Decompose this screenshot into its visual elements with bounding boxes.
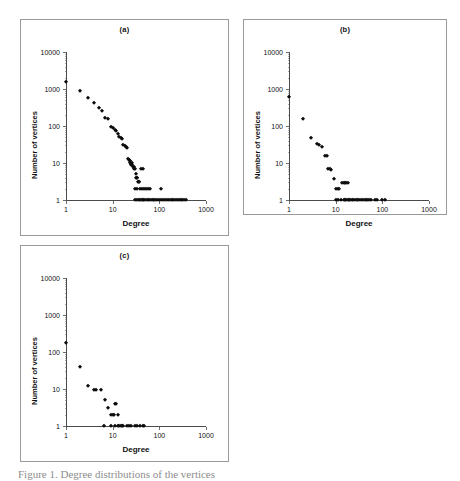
x-tick-label: 100 xyxy=(153,206,165,213)
y-minor-tick xyxy=(65,130,67,131)
y-axis-line xyxy=(66,52,67,200)
y-minor-tick xyxy=(65,334,67,335)
y-minor-tick xyxy=(288,63,290,64)
y-minor-tick xyxy=(65,165,67,166)
y-minor-tick xyxy=(288,71,290,72)
y-minor-tick xyxy=(288,137,290,138)
y-minor-tick xyxy=(65,415,67,416)
y-axis-line xyxy=(289,52,290,200)
y-minor-tick xyxy=(65,134,67,135)
y-tick-label: 1 xyxy=(20,423,60,430)
y-minor-tick xyxy=(65,378,67,379)
y-minor-tick xyxy=(288,108,290,109)
y-minor-tick xyxy=(65,71,67,72)
figure-caption: Figure 1. Degree distributions of the ve… xyxy=(18,468,448,480)
y-minor-tick xyxy=(65,367,67,368)
data-point xyxy=(78,364,83,369)
y-minor-tick xyxy=(65,408,67,409)
y-axis-title: Number of vertices xyxy=(253,111,262,179)
panel-a: (a) 1101001000100001101001000DegreeNumbe… xyxy=(20,19,229,236)
y-tick-label: 1 xyxy=(20,197,60,204)
y-minor-tick xyxy=(288,60,290,61)
y-tick-label: 10 xyxy=(243,160,283,167)
y-minor-tick xyxy=(288,141,290,142)
x-tick xyxy=(113,427,114,430)
y-minor-tick xyxy=(65,132,67,133)
x-tick xyxy=(206,201,207,204)
data-point xyxy=(106,117,111,122)
panel-b: (b) 1101001000100001101001000DegreeNumbe… xyxy=(243,19,447,215)
data-point xyxy=(309,135,314,140)
x-tick-label: 100 xyxy=(153,432,165,439)
panel-c-plot: 1101001000100001101001000DegreeNumber of… xyxy=(66,278,206,426)
x-tick xyxy=(429,201,430,204)
y-minor-tick xyxy=(65,58,67,59)
y-minor-tick xyxy=(65,360,67,361)
data-point xyxy=(319,145,324,150)
y-minor-tick xyxy=(288,171,290,172)
y-tick-label: 1000 xyxy=(20,86,60,93)
y-minor-tick xyxy=(65,93,67,94)
y-minor-tick xyxy=(65,282,67,283)
y-minor-tick xyxy=(65,321,67,322)
y-tick-label: 1000 xyxy=(20,312,60,319)
x-tick-label: 1 xyxy=(64,432,68,439)
y-minor-tick xyxy=(65,141,67,142)
data-point xyxy=(116,412,121,417)
y-minor-tick xyxy=(288,115,290,116)
data-point xyxy=(103,398,108,403)
y-minor-tick xyxy=(288,91,290,92)
y-minor-tick xyxy=(65,393,67,394)
data-point xyxy=(120,137,125,142)
data-point xyxy=(331,177,336,182)
y-minor-tick xyxy=(65,304,67,305)
y-minor-tick xyxy=(288,54,290,55)
data-point xyxy=(64,340,69,345)
y-minor-tick xyxy=(65,284,67,285)
x-tick xyxy=(206,427,207,430)
y-tick-label: 10 xyxy=(20,386,60,393)
data-point xyxy=(329,168,334,173)
x-axis-title: Degree xyxy=(345,219,372,228)
data-point xyxy=(159,186,164,191)
y-minor-tick xyxy=(65,97,67,98)
data-point xyxy=(86,384,91,389)
data-point xyxy=(86,95,91,100)
y-minor-tick xyxy=(65,60,67,61)
y-minor-tick xyxy=(65,330,67,331)
y-minor-tick xyxy=(65,395,67,396)
figure-root: (a) 1101001000100001101001000DegreeNumbe… xyxy=(0,0,460,481)
x-tick xyxy=(159,427,160,430)
x-tick-label: 1000 xyxy=(421,206,437,213)
panel-c: (c) 1101001000100001101001000DegreeNumbe… xyxy=(20,245,229,462)
y-minor-tick xyxy=(65,171,67,172)
y-minor-tick xyxy=(65,145,67,146)
y-minor-tick xyxy=(65,326,67,327)
y-minor-tick xyxy=(65,169,67,170)
y-minor-tick xyxy=(288,130,290,131)
data-point xyxy=(100,109,105,114)
x-tick xyxy=(66,201,67,204)
y-minor-tick xyxy=(65,174,67,175)
data-point xyxy=(124,145,129,150)
x-tick-label: 1000 xyxy=(198,432,214,439)
panel-c-title: (c) xyxy=(21,251,228,260)
y-minor-tick xyxy=(288,78,290,79)
x-tick xyxy=(113,201,114,204)
panel-a-title: (a) xyxy=(21,25,228,34)
y-minor-tick xyxy=(288,128,290,129)
y-minor-tick xyxy=(65,100,67,101)
y-tick-label: 1000 xyxy=(243,86,283,93)
y-minor-tick xyxy=(65,167,67,168)
data-point xyxy=(78,88,83,93)
y-minor-tick xyxy=(288,58,290,59)
x-tick-label: 10 xyxy=(109,206,117,213)
y-minor-tick xyxy=(65,323,67,324)
data-point xyxy=(114,401,119,406)
x-tick-label: 1 xyxy=(64,206,68,213)
y-tick-label: 10000 xyxy=(20,275,60,282)
panel-a-plot: 1101001000100001101001000DegreeNumber of… xyxy=(66,52,206,200)
x-tick xyxy=(382,201,383,204)
y-tick-label: 10000 xyxy=(243,49,283,56)
y-minor-tick xyxy=(65,152,67,153)
